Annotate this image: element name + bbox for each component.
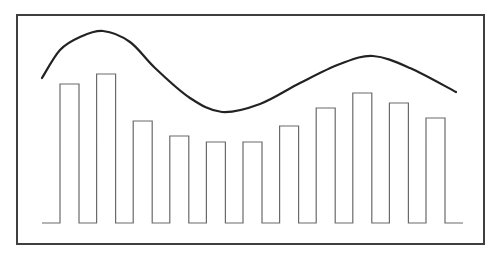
chart-frame: [17, 15, 484, 244]
bar-chart-with-trend-line: [0, 0, 488, 259]
bar-series-outline: [42, 74, 463, 223]
chart-container: [0, 0, 488, 259]
trend-curve: [42, 31, 456, 112]
